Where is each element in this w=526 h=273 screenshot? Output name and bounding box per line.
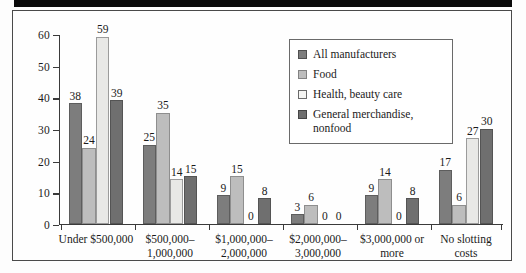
bar[interactable]: 8 [258, 34, 271, 224]
bar-value-label: 14 [171, 167, 183, 179]
bar-rect[interactable] [439, 170, 452, 224]
y-axis-tick-label: 0 [44, 219, 50, 231]
bar-value-label: 0 [396, 211, 402, 223]
y-axis-tick-label: 30 [38, 124, 50, 136]
y-axis-tick [53, 98, 59, 99]
x-axis-category-line: 1,000,000 [147, 247, 193, 259]
legend-swatch-icon [298, 110, 307, 119]
legend-label-line1: General merchandise, [313, 108, 413, 120]
x-axis-category-line: $3,000,000 or [360, 233, 424, 245]
bar-value-label: 27 [467, 126, 479, 138]
y-axis-tick-label: 40 [38, 92, 50, 104]
x-axis-category-line: more [380, 247, 404, 259]
legend-item-general-merchandise-nonfood: General merchandise,nonfood [298, 107, 444, 135]
x-axis-category-label: Under $500,000 [59, 232, 134, 246]
bar-value-label: 0 [336, 211, 342, 223]
bar-value-label: 14 [379, 167, 391, 179]
bar-group-bars: 91508 [217, 34, 272, 224]
bar-rect[interactable] [184, 176, 197, 224]
bar-rect[interactable] [258, 198, 271, 223]
y-axis-tick-label: 50 [38, 61, 50, 73]
x-axis-category-line: No slotting [440, 233, 491, 245]
bar-group-bars: 38245939 [69, 34, 124, 224]
x-axis-tick [357, 225, 358, 230]
bar-rect[interactable] [170, 179, 183, 223]
x-axis-tick [431, 225, 432, 230]
bar-value-label: 24 [83, 135, 95, 147]
x-axis-tick [283, 225, 284, 230]
bar[interactable]: 15 [184, 34, 197, 224]
bar-rect[interactable] [230, 176, 243, 224]
legend-swatch-icon [298, 70, 307, 79]
bar-group: 91508$1,000,000–2,000,000 [217, 34, 272, 224]
y-axis-tick [53, 162, 59, 163]
bar-value-label: 0 [322, 211, 328, 223]
x-axis-category-label: $1,000,000–2,000,000 [215, 232, 273, 260]
x-axis-category-line: costs [454, 247, 477, 259]
bar-value-label: 15 [185, 164, 197, 176]
legend-label: Food [313, 67, 337, 81]
legend-item-health-beauty-care: Health, beauty care [298, 87, 444, 101]
x-axis-category-line: 3,000,000 [295, 247, 341, 259]
bar[interactable]: 25 [143, 34, 156, 224]
bar-value-label: 59 [97, 24, 109, 36]
bar-value-label: 30 [481, 116, 493, 128]
bar[interactable]: 9 [217, 34, 230, 224]
y-axis-tick-label: 20 [38, 156, 50, 168]
x-axis-category-line: Under $500,000 [59, 233, 134, 245]
bar-value-label: 17 [440, 157, 452, 169]
legend-label: All manufacturers [313, 47, 396, 61]
bar-rect[interactable] [156, 113, 169, 224]
scan-artifact-band [14, 0, 512, 7]
bar-rect[interactable] [96, 37, 109, 224]
bar-group-bars: 25351415 [143, 34, 198, 224]
y-axis-tick [53, 193, 59, 194]
chart-figure: 0102030405060 38245939Under $500,0002535… [0, 0, 526, 273]
y-axis-tick [53, 225, 59, 226]
legend-label: Health, beauty care [313, 87, 402, 101]
bar[interactable]: 30 [480, 34, 493, 224]
bar[interactable]: 59 [96, 34, 109, 224]
y-axis-tick [53, 67, 59, 68]
y-axis-tick [53, 35, 59, 36]
bar-rect[interactable] [378, 179, 391, 223]
bar-rect[interactable] [365, 195, 378, 224]
bar-value-label: 35 [157, 100, 169, 112]
bar[interactable]: 15 [230, 34, 243, 224]
bar-rect[interactable] [480, 129, 493, 224]
x-axis-tick [61, 225, 62, 230]
y-axis-tick-label: 10 [38, 187, 50, 199]
x-axis-category-label: No slottingcosts [440, 232, 491, 260]
bar-rect[interactable] [110, 100, 123, 224]
bar-value-label: 6 [456, 192, 462, 204]
bar-value-label: 38 [70, 91, 82, 103]
bar-group: 38245939Under $500,000 [69, 34, 124, 224]
bar[interactable]: 39 [110, 34, 123, 224]
legend-item-all-manufacturers: All manufacturers [298, 47, 444, 61]
bar-rect[interactable] [452, 205, 465, 224]
bar-value-label: 0 [248, 211, 254, 223]
bar-rect[interactable] [82, 148, 95, 224]
y-axis-tick-label: 60 [38, 29, 50, 41]
bar[interactable]: 38 [69, 34, 82, 224]
bar-rect[interactable] [466, 138, 479, 224]
x-axis-tick [209, 225, 210, 230]
bar-rect[interactable] [291, 214, 304, 224]
bar-rect[interactable] [217, 195, 230, 224]
bar[interactable]: 35 [156, 34, 169, 224]
bar-rect[interactable] [69, 103, 82, 223]
x-axis-category-line: $500,000– [146, 233, 195, 245]
bar-value-label: 8 [410, 186, 416, 198]
bar-rect[interactable] [406, 198, 419, 223]
bar[interactable]: 0 [244, 34, 257, 224]
bar-value-label: 15 [231, 164, 243, 176]
bar[interactable]: 14 [170, 34, 183, 224]
bar-rect[interactable] [143, 145, 156, 224]
x-axis-category-line: 2,000,000 [221, 247, 267, 259]
chart-legend: All manufacturers Food Health, beauty ca… [289, 39, 453, 144]
bar-rect[interactable] [304, 205, 317, 224]
x-axis-category-label: $3,000,000 ormore [360, 232, 424, 260]
bar[interactable]: 6 [452, 34, 465, 224]
bar[interactable]: 24 [82, 34, 95, 224]
bar[interactable]: 27 [466, 34, 479, 224]
